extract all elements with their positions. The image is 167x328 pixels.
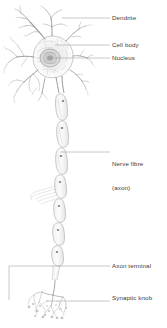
label-nerve-fibre: Nerve fibre (axon) <box>112 144 143 208</box>
label-cell-body: Cell body <box>112 41 139 49</box>
label-nucleus: Nucleus <box>112 54 135 62</box>
leader-bracket-axon-terminal <box>9 266 110 300</box>
axon-hillock <box>56 76 64 93</box>
label-nerve-fibre-line2: (axon) <box>112 184 143 192</box>
label-synaptic-knob: Synaptic knob <box>112 294 152 302</box>
myelin-segment <box>54 199 66 222</box>
label-nerve-fibre-line1: Nerve fibre <box>112 160 143 168</box>
label-axon-terminal: Axon terminal <box>112 262 151 270</box>
synaptic-knobs <box>28 303 68 319</box>
nerve-fibre-axon <box>31 94 69 280</box>
myelin-segment <box>52 246 64 266</box>
label-dendrite: Dendrite <box>112 14 136 22</box>
myelin-segment <box>53 223 65 245</box>
myelin-segment <box>55 175 67 198</box>
neuron-diagram: Dendrite Cell body Nucleus Nerve fibre (… <box>0 0 167 328</box>
myelin-segment <box>57 121 69 147</box>
axon-terminal-tree <box>28 280 66 317</box>
myelin-unwrapping-detail <box>31 186 58 204</box>
myelin-segment <box>55 94 67 120</box>
